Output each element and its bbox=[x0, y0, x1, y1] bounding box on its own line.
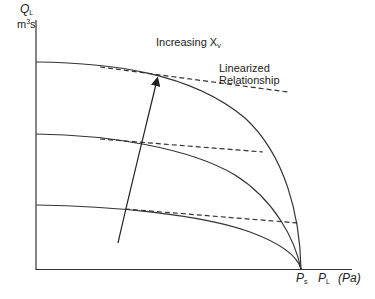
x-label-ps-sub: s bbox=[304, 278, 308, 285]
curve-high-xv bbox=[36, 62, 301, 269]
y-axis-unit: m3s bbox=[17, 16, 36, 30]
y-axis-unit-base: m bbox=[17, 18, 26, 30]
x-label-ps: Ps bbox=[296, 272, 308, 288]
increasing-xv-label: Increasing Xv bbox=[156, 36, 221, 52]
curve-low-xv bbox=[36, 205, 301, 269]
y-axis-q: Q bbox=[20, 2, 29, 16]
increasing-xv-arrow bbox=[118, 80, 157, 243]
y-axis-q-sub: L bbox=[29, 9, 33, 16]
x-label-ps-p: P bbox=[296, 271, 304, 285]
increasing-xv-text: Increasing X bbox=[156, 36, 217, 48]
linearized-label-line2: Relationship bbox=[219, 74, 280, 86]
y-axis-unit-tail: s bbox=[30, 18, 36, 30]
linearized-line-mid bbox=[100, 139, 263, 152]
curve-mid-xv bbox=[36, 134, 301, 269]
linearized-label-line1: Linearized bbox=[219, 62, 270, 74]
increasing-xv-sub: v bbox=[217, 42, 221, 49]
x-label-pl-p: P bbox=[318, 271, 326, 285]
x-axis-unit: (Pa) bbox=[338, 272, 361, 284]
x-label-pl: PL bbox=[318, 272, 330, 288]
x-label-pl-sub: L bbox=[326, 278, 330, 285]
